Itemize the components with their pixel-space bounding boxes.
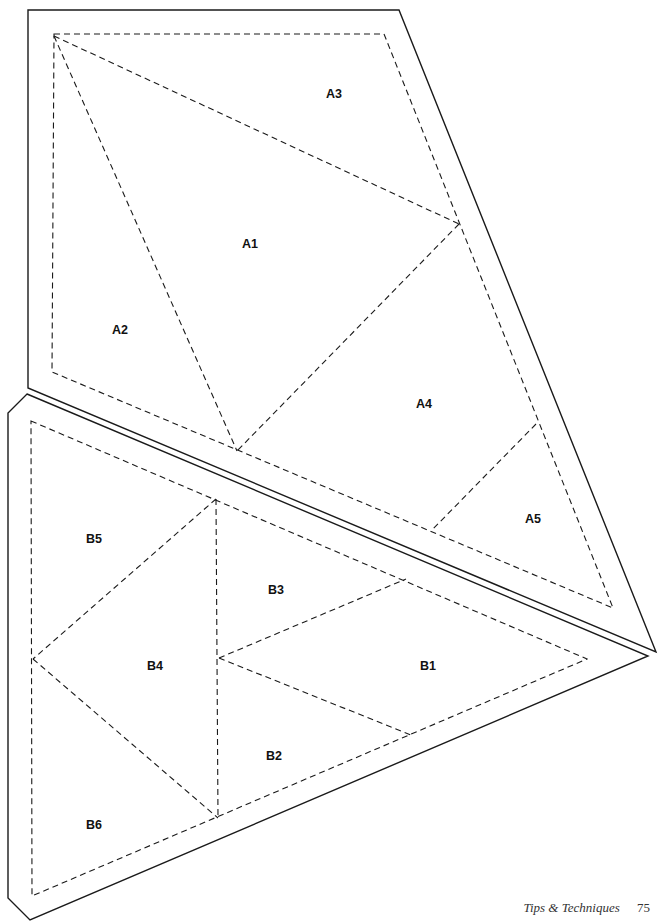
piece-label-b6: B6	[86, 818, 102, 832]
piece-label-b5: B5	[86, 532, 102, 546]
footer-section-title: Tips & Techniques	[523, 900, 619, 915]
piece-label-b1: B1	[420, 659, 436, 673]
piece-label-a4: A4	[416, 397, 432, 411]
piece-label-b3: B3	[268, 583, 284, 597]
piece-label-a5: A5	[525, 512, 541, 526]
piece-label-b2: B2	[266, 749, 282, 763]
page-footer: Tips & Techniques 75	[523, 900, 650, 916]
piece-label-b4: B4	[147, 659, 163, 673]
piece-label-a3: A3	[326, 87, 342, 101]
piece-label-a1: A1	[242, 237, 258, 251]
foundation-pattern: A1 A2 A3 A4 A5 B1 B2 B3 B4 B5 B6	[0, 0, 664, 922]
piece-label-a2: A2	[112, 323, 128, 337]
footer-page-number: 75	[637, 900, 650, 915]
